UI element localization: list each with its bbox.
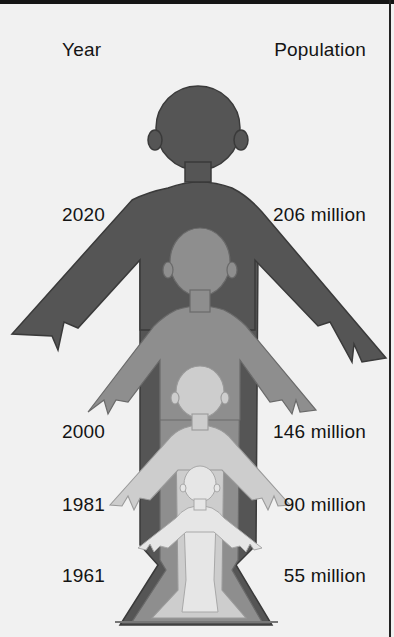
year-1981-label: 1981 [62,495,105,515]
year-2000-label: 2000 [62,422,105,442]
population-header: Population [274,40,366,60]
year-1961-label: 1961 [62,566,105,586]
population-2000-label: 146 million [273,422,366,442]
year-header: Year [62,40,101,60]
population-2020-label: 206 million [273,205,366,225]
population-1961-label: 55 million [284,566,366,586]
population-1981-label: 90 million [284,495,366,515]
population-figures [0,0,394,637]
year-2020-label: 2020 [62,205,105,225]
population-pictograph: Year Population 2020 206 million 2000 14… [0,0,394,637]
